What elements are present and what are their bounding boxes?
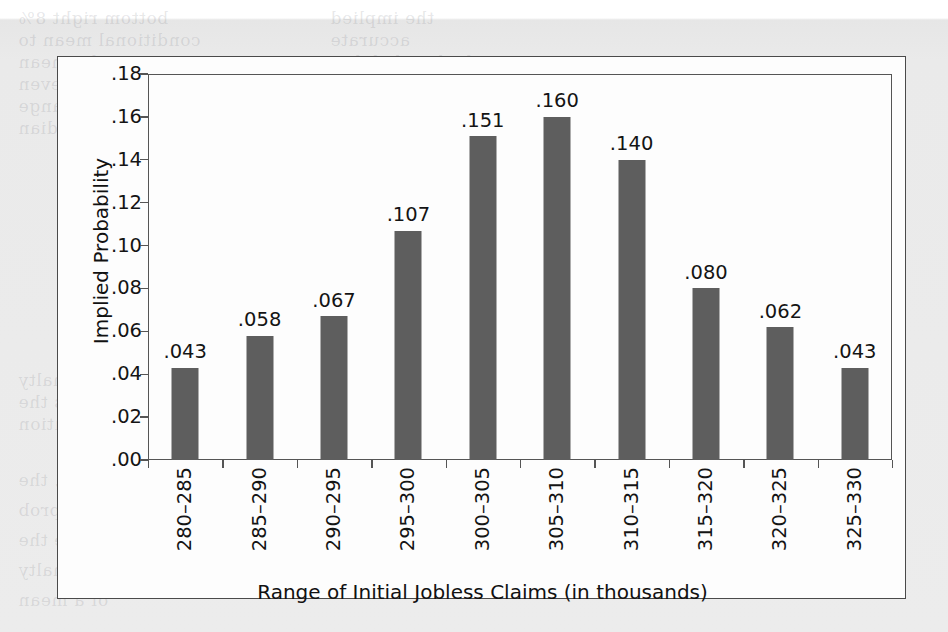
bar xyxy=(320,316,347,460)
ghost-text-line: the implied xyxy=(330,8,434,28)
x-axis-tick-label: 325–330 xyxy=(845,467,865,551)
bar xyxy=(469,136,496,460)
bar-value-label: .062 xyxy=(759,302,802,322)
plot-area: .043.058.067.107.151.160.140.080.062.043 xyxy=(148,74,892,460)
x-axis-tick-label: 300–305 xyxy=(473,467,493,551)
bar-group: .151 xyxy=(446,74,520,460)
bar-value-label: .058 xyxy=(238,310,281,330)
y-axis-tick-mark xyxy=(140,459,148,460)
bar xyxy=(172,368,199,460)
x-axis-tick-label-slot: 310–315 xyxy=(594,467,668,575)
x-axis-tick-label: 295–300 xyxy=(399,467,419,551)
bar xyxy=(618,160,645,460)
y-axis-tick-labels: .18.16.14.12.10.08.06.04.02.00 xyxy=(58,74,142,460)
x-axis-tick-label: 305–310 xyxy=(547,467,567,551)
y-axis-tick-label: .08 xyxy=(111,279,142,299)
x-axis-tick-label: 310–315 xyxy=(622,467,642,551)
x-axis-tick-labels: 280–285285–290290–295295–300300–305305–3… xyxy=(148,467,892,575)
bar-value-label: .151 xyxy=(461,111,504,131)
y-axis-tick-mark xyxy=(140,374,148,375)
y-axis-tick-label: .10 xyxy=(111,236,142,256)
bar-group: .140 xyxy=(594,74,668,460)
y-axis-tick-mark xyxy=(140,416,148,417)
bar xyxy=(544,117,571,460)
bar xyxy=(246,336,273,460)
x-axis-tick-label-slot: 280–285 xyxy=(148,467,222,575)
bar xyxy=(767,327,794,460)
bar-value-label: .140 xyxy=(610,134,653,154)
x-axis-tick-label-slot: 290–295 xyxy=(297,467,371,575)
x-axis-tick-mark xyxy=(892,460,893,468)
bar-group: .062 xyxy=(743,74,817,460)
y-axis-tick-mark xyxy=(140,73,148,74)
bars-layer: .043.058.067.107.151.160.140.080.062.043 xyxy=(148,74,892,460)
bar-value-label: .160 xyxy=(535,91,578,111)
y-axis-tick-label: .16 xyxy=(111,107,142,127)
ghost-text-line: bottom right 8% xyxy=(18,8,168,28)
bar-value-label: .067 xyxy=(312,291,355,311)
y-axis-tick-label: .02 xyxy=(111,407,142,427)
bar-group: .067 xyxy=(297,74,371,460)
figure-box: Implied Probability .18.16.14.12.10.08.0… xyxy=(57,56,906,599)
y-axis-tick-mark xyxy=(140,331,148,332)
x-axis-tick-label: 290–295 xyxy=(324,467,344,551)
x-axis-tick-label: 285–290 xyxy=(250,467,270,551)
x-axis-tick-label-slot: 285–290 xyxy=(222,467,296,575)
bar-value-label: .080 xyxy=(684,263,727,283)
y-axis-tick-label: .04 xyxy=(111,364,142,384)
bar xyxy=(395,231,422,460)
x-axis-tick-label-slot: 315–320 xyxy=(669,467,743,575)
bar-group: .043 xyxy=(148,74,222,460)
y-axis-tick-mark xyxy=(140,288,148,289)
y-axis-tick-mark xyxy=(140,245,148,246)
y-axis-tick-label: .14 xyxy=(111,150,142,170)
x-axis-tick-label: 320–325 xyxy=(771,467,791,551)
bar-value-label: .043 xyxy=(163,342,206,362)
y-axis-tick-mark xyxy=(140,202,148,203)
x-axis-title: Range of Initial Jobless Claims (in thou… xyxy=(58,580,907,604)
ghost-text-line: conditional mean to xyxy=(18,30,201,50)
bar-group: .043 xyxy=(818,74,892,460)
y-axis-tick-label: .06 xyxy=(111,322,142,342)
ghost-text-line: accurate xyxy=(330,30,410,50)
y-axis-tick-mark xyxy=(140,116,148,117)
bar xyxy=(841,368,868,460)
bar-group: .107 xyxy=(371,74,445,460)
y-axis-tick-label: .12 xyxy=(111,193,142,213)
bar-group: .058 xyxy=(222,74,296,460)
bar xyxy=(692,288,719,460)
bar-value-label: .107 xyxy=(387,205,430,225)
x-axis-tick-label-slot: 320–325 xyxy=(743,467,817,575)
y-axis-tick-mark xyxy=(140,159,148,160)
x-axis-tick-label-slot: 295–300 xyxy=(371,467,445,575)
bar-value-label: .043 xyxy=(833,342,876,362)
y-axis-tick-label: .00 xyxy=(111,450,142,470)
x-axis-tick-label-slot: 305–310 xyxy=(520,467,594,575)
bar-group: .160 xyxy=(520,74,594,460)
x-axis-tick-label: 315–320 xyxy=(696,467,716,551)
scanned-page: bottom right 8%conditional mean toin the… xyxy=(0,0,948,632)
y-axis-tick-label: .18 xyxy=(111,64,142,84)
x-axis-tick-label-slot: 300–305 xyxy=(446,467,520,575)
x-axis-tick-label-slot: 325–330 xyxy=(818,467,892,575)
bar-group: .080 xyxy=(669,74,743,460)
x-axis-tick-label: 280–285 xyxy=(175,467,195,551)
